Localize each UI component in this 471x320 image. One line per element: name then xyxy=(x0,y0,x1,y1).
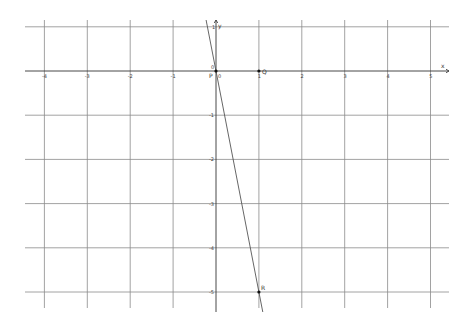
y-tick-label: -1 xyxy=(209,112,214,118)
x-tick-label: -4 xyxy=(42,73,47,79)
line-y-equals-neg5x[interactable] xyxy=(206,20,263,312)
x-tick-label: 4 xyxy=(386,73,389,79)
x-tick-label: -3 xyxy=(85,73,90,79)
grid-lines xyxy=(25,20,449,308)
y-tick-label: -2 xyxy=(209,156,214,162)
x-tick-label: -2 xyxy=(128,73,133,79)
x-tick-label: 0 xyxy=(218,73,221,79)
x-tick-label: 1 xyxy=(258,73,261,79)
x-tick-label: 5 xyxy=(429,73,432,79)
y-tick-label: -4 xyxy=(209,245,214,251)
axes: xy xyxy=(25,20,449,312)
y-axis-label: y xyxy=(218,22,222,30)
y-tick-label: 0 xyxy=(211,64,214,70)
point-p[interactable] xyxy=(214,69,217,72)
y-tick-label: 1 xyxy=(212,24,215,30)
x-tick-label: -1 xyxy=(171,73,176,79)
line-pr[interactable] xyxy=(206,20,263,312)
x-tick-label: 3 xyxy=(344,73,347,79)
x-axis-label: x xyxy=(441,62,445,69)
y-tick-label: -3 xyxy=(209,201,214,207)
point-label-r: R xyxy=(261,284,265,291)
y-tick-label: -5 xyxy=(209,289,214,295)
coordinate-plane[interactable]: xy -4-3-2-101234510-1-2-3-4-5 PQR xyxy=(0,0,471,320)
point-label-p: P xyxy=(209,72,213,79)
point-q[interactable] xyxy=(257,69,260,72)
x-tick-label: 2 xyxy=(301,73,304,79)
point-label-q: Q xyxy=(262,68,267,75)
points[interactable]: PQR xyxy=(209,68,267,294)
